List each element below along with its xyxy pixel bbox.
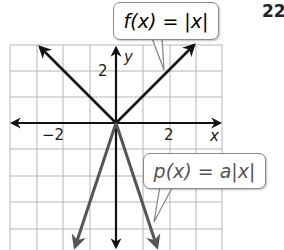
tick-x-neg-2: −2 xyxy=(42,128,64,143)
problem-number: 22 xyxy=(262,1,284,21)
x-axis-label: x xyxy=(210,129,219,144)
p-callout: p(x) = a|x| xyxy=(143,153,266,189)
f-callout-tail xyxy=(152,38,164,70)
axes xyxy=(12,48,220,247)
tick-x-pos-2: 2 xyxy=(164,128,174,143)
f-callout: f(x) = |x| xyxy=(113,2,219,40)
y-axis-label: y xyxy=(124,50,133,65)
p-formula: p(x) = a|x| xyxy=(154,160,256,182)
tick-y-pos-2: 2 xyxy=(98,64,108,79)
f-formula: f(x) = |x| xyxy=(124,10,209,32)
